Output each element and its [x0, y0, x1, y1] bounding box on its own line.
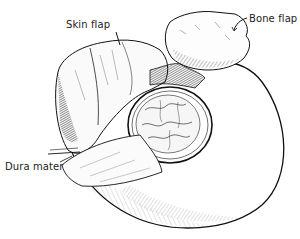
bone-flap-label: Bone flap	[249, 13, 297, 24]
skin-flap-label: Skin flap	[66, 19, 110, 30]
dura-mater-label: Dura mater	[5, 161, 64, 172]
craniotomy-illustration: Skin flap Bone flap Dura mater	[0, 0, 300, 239]
bone-flap	[165, 11, 249, 70]
illustration-drawing	[0, 0, 300, 239]
